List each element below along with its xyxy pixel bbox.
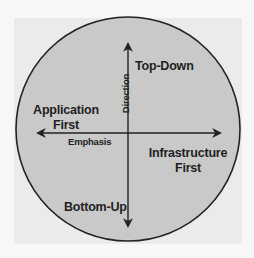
label-infrastructure-first-line1: Infrastructure: [148, 146, 228, 161]
label-application-first: Application First: [28, 103, 104, 133]
label-application-first-line1: Application: [28, 103, 104, 118]
label-infrastructure-first: Infrastructure First: [148, 146, 228, 176]
axis-label-emphasis: Emphasis: [68, 134, 118, 149]
label-top-down: Top-Down: [135, 59, 203, 74]
label-application-first-line2: First: [28, 118, 104, 133]
label-bottom-up: Bottom-Up: [64, 200, 128, 215]
axis-label-direction: Direction: [118, 69, 133, 119]
label-infrastructure-first-line2: First: [148, 161, 228, 176]
